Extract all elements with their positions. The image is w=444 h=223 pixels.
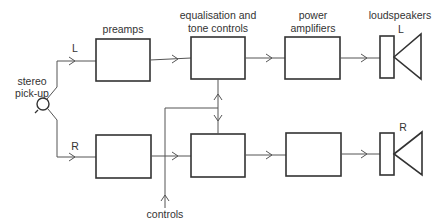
eq-left-block bbox=[191, 37, 245, 79]
speaker-right-icon bbox=[380, 132, 422, 175]
preamp-right-block bbox=[96, 135, 151, 178]
speaker-left-icon bbox=[380, 34, 421, 79]
power-right-block bbox=[286, 133, 341, 176]
pickup-label-line2: pick-up bbox=[15, 87, 49, 99]
speaker-right-label: R bbox=[399, 121, 407, 133]
pickup-icon bbox=[35, 98, 49, 113]
preamp-left-block bbox=[96, 39, 150, 81]
power-label-line2: amplifiers bbox=[291, 22, 336, 34]
loudspeakers-label: loudspeakers bbox=[369, 9, 431, 21]
power-left-block bbox=[285, 37, 340, 79]
channel-right-label: R bbox=[71, 140, 79, 152]
eq-label-line1: equalisation and bbox=[180, 9, 257, 21]
preamps-label: preamps bbox=[103, 23, 144, 35]
eq-right-block bbox=[191, 134, 245, 177]
left-input-wire bbox=[47, 61, 96, 99]
speaker-left-label: L bbox=[398, 23, 404, 35]
stereo-block-diagram: preamps equalisation and tone controls p… bbox=[0, 0, 444, 223]
wire-preamp-eq-left bbox=[150, 58, 191, 60]
controls-label: controls bbox=[147, 208, 184, 220]
eq-label-line2: tone controls bbox=[188, 22, 248, 34]
power-label-line1: power bbox=[299, 9, 328, 21]
channel-left-label: L bbox=[72, 42, 78, 54]
pickup-label-line1: stereo bbox=[17, 75, 46, 87]
